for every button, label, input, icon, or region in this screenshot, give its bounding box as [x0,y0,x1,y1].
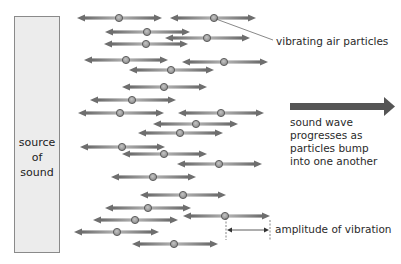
sound-source-box: source of sound [14,16,60,253]
sound-wave-line: particles bump [290,142,377,155]
vibration-arrow [104,40,188,47]
source-line: sound [15,165,59,180]
air-particle [116,109,123,116]
vibration-arrow [183,212,270,219]
vibration-arrow [77,14,162,21]
air-particle [128,96,135,103]
vibration-arrow [90,96,176,103]
air-particle [167,66,174,73]
air-particle [179,191,186,198]
air-particle [144,204,151,211]
amplitude-marker [226,218,270,240]
amplitude-label: amplitude of vibration [275,223,392,236]
vibration-arrow [178,109,264,116]
vibrating-particles-label: vibrating air particles [276,35,388,48]
sound-wave-line: progresses as [290,129,377,142]
vibration-arrow [80,143,165,150]
air-particle [160,83,167,90]
air-particle [210,14,217,21]
source-line: source [15,135,59,150]
vibration-arrow [105,28,190,35]
vibration-arrow [165,34,250,41]
vibration-arrow [140,191,226,198]
vibration-arrow [74,228,159,235]
air-particle [142,40,149,47]
vibration-arrows [74,14,270,247]
sound-wave-label: sound wave progresses as particles bump … [290,116,377,168]
air-particle [170,240,177,247]
air-particle [118,143,125,150]
vibration-arrow [93,216,178,223]
vibration-arrow [84,56,168,63]
vibration-arrow [122,83,207,90]
vibration-arrow [111,173,196,180]
vibration-arrow [132,240,218,247]
vibration-arrow [177,160,262,167]
air-particle [131,216,138,223]
vibration-arrow [170,14,256,21]
source-line: of [15,150,59,165]
vibration-arrow [182,58,268,65]
sound-wave-line: sound wave [290,116,377,129]
air-particle [149,173,156,180]
air-particle [160,150,167,157]
air-particle [113,228,120,235]
vibration-arrow [138,129,223,136]
vibration-arrow [129,66,214,73]
air-particle [122,56,129,63]
air-particle [143,28,150,35]
air-particle [203,34,210,41]
air-particle [192,120,199,127]
sound-wave-arrow [290,97,395,116]
vibration-arrow [153,120,238,127]
air-particle [221,212,228,219]
sound-wave-line: into one another [290,155,377,168]
air-particle [115,14,122,21]
source-label: source of sound [15,135,59,180]
air-particle [176,129,183,136]
vibration-arrow [122,150,207,157]
vibration-arrow [105,204,191,211]
vibration-arrow [78,109,164,116]
air-particle [215,160,222,167]
air-particle [220,58,227,65]
air-particle [217,109,224,116]
